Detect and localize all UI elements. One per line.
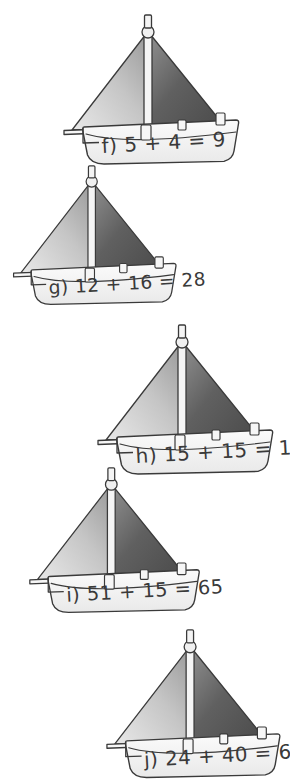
masthead-finial: [105, 468, 117, 490]
masthead-finial: [184, 630, 196, 653]
mast: [186, 651, 194, 750]
left-sail: [106, 344, 180, 440]
worksheet-canvas: f) 5 + 4 = 9: [0, 0, 290, 782]
sailboat-f: f) 5 + 4 = 9: [58, 12, 244, 167]
masthead-finial: [176, 325, 188, 348]
sailboat-h: h) 15 + 15 = 15: [92, 322, 278, 477]
right-sail: [192, 649, 267, 742]
mast: [178, 346, 186, 446]
left-sail: [38, 486, 110, 579]
left-sail: [115, 649, 188, 744]
sailboat-i: i) 51 + 15 = 65: [24, 465, 204, 615]
right-sail: [113, 486, 187, 577]
mast: [88, 185, 95, 278]
sailboat-g: g) 12 + 16 = 28: [8, 163, 181, 307]
right-sail: [184, 344, 260, 438]
mast: [107, 488, 115, 585]
masthead-finial: [142, 15, 154, 38]
mast: [144, 36, 152, 136]
right-sail: [94, 183, 165, 270]
right-sail: [150, 34, 226, 128]
left-sail: [21, 183, 90, 272]
sailboat-j: j) 24 + 40 = 64: [101, 627, 285, 780]
left-sail: [72, 34, 146, 130]
masthead-finial: [86, 166, 97, 187]
